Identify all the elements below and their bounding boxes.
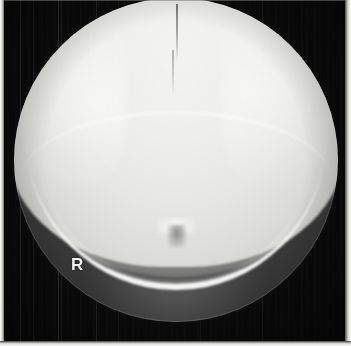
- collimation-field: [14, 0, 338, 322]
- occipital-arc-notch: [168, 225, 186, 248]
- sagittal-suture-lower: [172, 50, 174, 95]
- laterality-marker-r: R: [71, 256, 84, 273]
- sagittal-suture: [176, 4, 178, 62]
- radiograph-viewer: R: [0, 0, 351, 346]
